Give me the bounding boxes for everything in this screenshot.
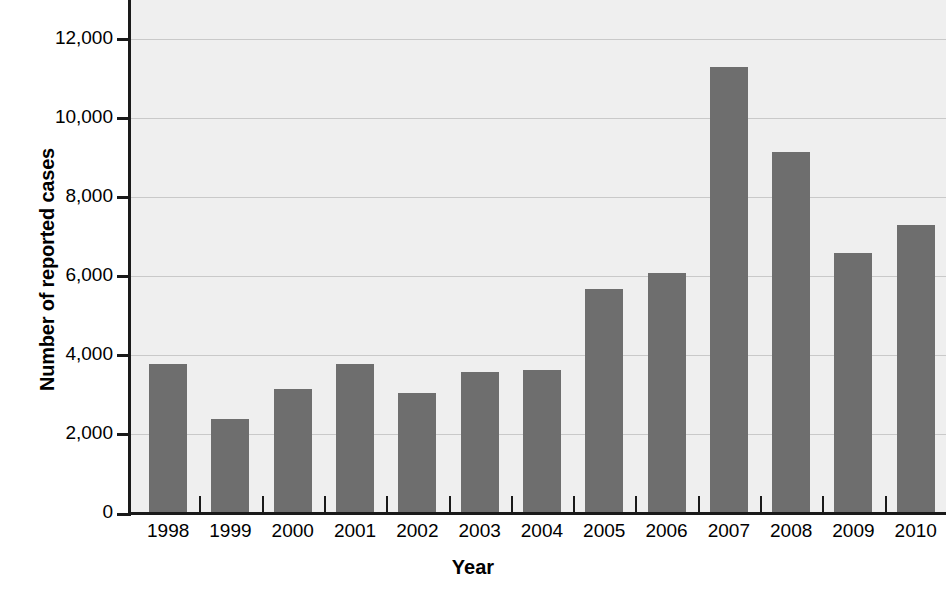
y-axis-line bbox=[128, 0, 131, 515]
bar bbox=[897, 225, 935, 514]
bar bbox=[710, 67, 748, 514]
bar bbox=[585, 289, 623, 514]
y-tick-mark bbox=[117, 354, 131, 357]
plot-area bbox=[130, 0, 946, 514]
x-tick-label: 2000 bbox=[272, 520, 314, 542]
bar-chart-figure: Number of reported cases 02,0004,0006,00… bbox=[0, 0, 946, 591]
x-tick-label: 2005 bbox=[583, 520, 625, 542]
y-tick-mark bbox=[117, 196, 131, 199]
bar bbox=[211, 419, 249, 514]
x-tick-mark bbox=[573, 496, 575, 514]
x-axis-title: Year bbox=[0, 556, 946, 579]
x-tick-mark bbox=[635, 496, 637, 514]
x-tick-mark bbox=[324, 496, 326, 514]
y-tick-label: 2,000 bbox=[3, 422, 113, 444]
x-tick-mark bbox=[386, 496, 388, 514]
bar bbox=[461, 372, 499, 514]
bar bbox=[834, 253, 872, 514]
x-tick-mark bbox=[511, 496, 513, 514]
x-tick-mark bbox=[199, 496, 201, 514]
x-tick-label: 1999 bbox=[209, 520, 251, 542]
gridline bbox=[130, 355, 946, 356]
x-tick-mark bbox=[698, 496, 700, 514]
x-tick-label: 2004 bbox=[521, 520, 563, 542]
y-tick-label: 8,000 bbox=[3, 185, 113, 207]
bar bbox=[523, 370, 561, 514]
x-tick-label: 2002 bbox=[396, 520, 438, 542]
bar bbox=[274, 389, 312, 514]
gridline bbox=[130, 197, 946, 198]
x-tick-mark bbox=[822, 496, 824, 514]
bar bbox=[398, 393, 436, 514]
y-tick-label: 0 bbox=[3, 501, 113, 523]
bar bbox=[149, 364, 187, 514]
x-tick-label: 1998 bbox=[147, 520, 189, 542]
gridline bbox=[130, 39, 946, 40]
y-tick-label: 6,000 bbox=[3, 264, 113, 286]
y-tick-mark bbox=[117, 513, 131, 516]
x-tick-label: 2010 bbox=[895, 520, 937, 542]
gridline bbox=[130, 276, 946, 277]
x-tick-mark bbox=[262, 496, 264, 514]
x-tick-label: 2003 bbox=[459, 520, 501, 542]
y-tick-mark bbox=[117, 38, 131, 41]
x-tick-label: 2009 bbox=[832, 520, 874, 542]
x-tick-label: 2007 bbox=[708, 520, 750, 542]
bar bbox=[336, 364, 374, 514]
y-tick-label: 10,000 bbox=[3, 106, 113, 128]
x-tick-label: 2006 bbox=[645, 520, 687, 542]
gridline bbox=[130, 118, 946, 119]
x-tick-label: 2001 bbox=[334, 520, 376, 542]
x-tick-mark bbox=[760, 496, 762, 514]
y-tick-mark bbox=[117, 275, 131, 278]
y-tick-label: 12,000 bbox=[3, 27, 113, 49]
bar bbox=[648, 273, 686, 514]
x-tick-mark bbox=[885, 496, 887, 514]
y-tick-mark bbox=[117, 117, 131, 120]
y-tick-label: 4,000 bbox=[3, 343, 113, 365]
x-tick-mark bbox=[449, 496, 451, 514]
bar bbox=[772, 152, 810, 514]
y-tick-mark bbox=[117, 433, 131, 436]
x-tick-label: 2008 bbox=[770, 520, 812, 542]
y-axis-tick-labels: 02,0004,0006,0008,00010,00012,000 bbox=[0, 0, 113, 514]
